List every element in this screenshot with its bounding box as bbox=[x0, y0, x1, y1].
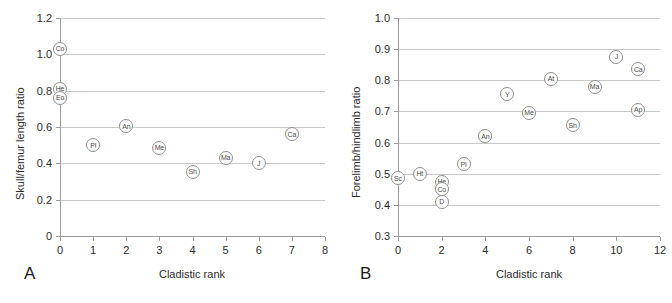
x-tick-label: 4 bbox=[189, 244, 195, 256]
data-point-ap: Ap bbox=[631, 103, 645, 117]
x-tick-label: 0 bbox=[57, 244, 63, 256]
data-point-j: J bbox=[252, 156, 266, 170]
y-tick-mark bbox=[394, 111, 398, 112]
y-tick-label: 0.6 bbox=[375, 137, 390, 149]
gridline-b bbox=[398, 143, 660, 144]
x-tick-label: 2 bbox=[439, 244, 445, 256]
x-tick-label: 10 bbox=[610, 244, 622, 256]
x-tick-label: 3 bbox=[156, 244, 162, 256]
x-tick-mark bbox=[193, 237, 194, 241]
x-tick-mark bbox=[159, 237, 160, 241]
y-tick-mark bbox=[394, 143, 398, 144]
y-tick-label: 1.0 bbox=[37, 48, 52, 60]
y-tick-label: 0.2 bbox=[37, 194, 52, 206]
y-axis-line-b bbox=[398, 18, 399, 236]
chart-panel-b: 0.30.40.50.60.70.80.91.0024681012ScHtHeC… bbox=[336, 0, 672, 303]
x-tick-label: 5 bbox=[223, 244, 229, 256]
y-tick-label: 0.8 bbox=[375, 74, 390, 86]
y-tick-mark bbox=[56, 127, 60, 128]
gridline-a bbox=[60, 127, 325, 128]
y-tick-label: 0.9 bbox=[375, 43, 390, 55]
x-tick-label: 7 bbox=[289, 244, 295, 256]
x-tick-mark bbox=[398, 237, 399, 241]
x-tick-mark bbox=[529, 237, 530, 241]
x-tick-mark bbox=[616, 237, 617, 241]
y-tick-label: 0.4 bbox=[37, 157, 52, 169]
data-point-me: Me bbox=[152, 141, 166, 155]
data-point-at: At bbox=[544, 72, 558, 86]
x-tick-mark bbox=[226, 237, 227, 241]
x-tick-label: 1 bbox=[90, 244, 96, 256]
y-tick-label: 0.8 bbox=[37, 85, 52, 97]
figure-container: 00.20.40.60.81.01.2012345678CoHeEoPlAnMe… bbox=[0, 0, 672, 303]
x-tick-label: 8 bbox=[322, 244, 328, 256]
data-point-j: J bbox=[609, 50, 623, 64]
data-point-y: Y bbox=[500, 87, 514, 101]
gridline-b bbox=[398, 174, 660, 175]
y-axis-title-a: Skull/femur length ratio bbox=[14, 88, 26, 201]
y-tick-mark bbox=[394, 205, 398, 206]
data-point-ca: Ca bbox=[285, 127, 299, 141]
panel-letter-b: B bbox=[360, 264, 371, 284]
y-tick-mark bbox=[56, 200, 60, 201]
y-tick-label: 0 bbox=[46, 230, 52, 242]
data-point-ht: Ht bbox=[413, 167, 427, 181]
x-tick-label: 2 bbox=[123, 244, 129, 256]
data-point-ca: Ca bbox=[631, 62, 645, 76]
x-tick-mark bbox=[660, 237, 661, 241]
gridline-b bbox=[398, 18, 660, 19]
data-point-pl: Pl bbox=[86, 138, 100, 152]
x-tick-mark bbox=[126, 237, 127, 241]
x-tick-mark bbox=[60, 237, 61, 241]
data-point-eo: Eo bbox=[53, 91, 67, 105]
y-tick-mark bbox=[56, 18, 60, 19]
y-tick-mark bbox=[56, 163, 60, 164]
chart-panel-a: 00.20.40.60.81.01.2012345678CoHeEoPlAnMe… bbox=[0, 0, 336, 303]
x-tick-mark bbox=[573, 237, 574, 241]
y-axis-title-b: Forelimb/hindlimb ratio bbox=[350, 87, 362, 198]
data-point-ma: Ma bbox=[588, 80, 602, 94]
data-point-an: An bbox=[478, 129, 492, 143]
y-tick-mark bbox=[394, 18, 398, 19]
x-tick-label: 12 bbox=[654, 244, 666, 256]
y-tick-mark bbox=[394, 80, 398, 81]
x-axis-title-a: Cladistic rank bbox=[159, 268, 225, 280]
gridline-a bbox=[60, 54, 325, 55]
panel-letter-a: A bbox=[24, 264, 35, 284]
x-tick-label: 8 bbox=[570, 244, 576, 256]
gridline-a bbox=[60, 91, 325, 92]
x-tick-mark bbox=[292, 237, 293, 241]
plot-area-b: 0.30.40.50.60.70.80.91.0024681012ScHtHeC… bbox=[398, 18, 660, 236]
y-tick-label: 1.0 bbox=[375, 12, 390, 24]
data-point-an: An bbox=[119, 119, 133, 133]
y-tick-label: 1.2 bbox=[37, 12, 52, 24]
data-point-co: Co bbox=[53, 42, 67, 56]
data-point-pl: Pl bbox=[457, 157, 471, 171]
data-point-sh: Sh bbox=[566, 118, 580, 132]
x-tick-mark bbox=[442, 237, 443, 241]
x-tick-label: 0 bbox=[395, 244, 401, 256]
x-tick-mark bbox=[259, 237, 260, 241]
x-tick-mark bbox=[485, 237, 486, 241]
x-tick-mark bbox=[325, 237, 326, 241]
y-tick-mark bbox=[394, 49, 398, 50]
gridline-b bbox=[398, 49, 660, 50]
y-tick-label: 0.7 bbox=[375, 105, 390, 117]
x-tick-label: 6 bbox=[526, 244, 532, 256]
data-point-me: Me bbox=[522, 106, 536, 120]
plot-area-a: 00.20.40.60.81.01.2012345678CoHeEoPlAnMe… bbox=[60, 18, 325, 236]
gridline-b bbox=[398, 80, 660, 81]
y-tick-label: 0.4 bbox=[375, 199, 390, 211]
data-point-sc: Sc bbox=[391, 171, 405, 185]
y-tick-label: 0.5 bbox=[375, 168, 390, 180]
x-tick-label: 6 bbox=[256, 244, 262, 256]
data-point-ma: Ma bbox=[219, 151, 233, 165]
x-axis-title-b: Cladistic rank bbox=[496, 268, 562, 280]
gridline-a bbox=[60, 18, 325, 19]
data-point-d: D bbox=[435, 195, 449, 209]
data-point-sh: Sh bbox=[186, 165, 200, 179]
y-tick-label: 0.3 bbox=[375, 230, 390, 242]
y-tick-label: 0.6 bbox=[37, 121, 52, 133]
gridline-a bbox=[60, 200, 325, 201]
x-tick-mark bbox=[93, 237, 94, 241]
